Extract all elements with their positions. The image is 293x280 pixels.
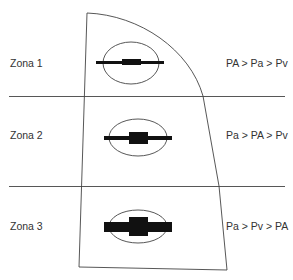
capillary-lumen-block: [122, 59, 141, 65]
zone-1: Zona 1 PA > Pa > Pv: [10, 42, 288, 84]
zone-label: Zona 3: [10, 220, 43, 232]
zone-3: Zona 3 Pa > Pv > PA: [10, 210, 288, 243]
pressure-relation: Pa > PA > Pv: [226, 129, 288, 141]
capillary-lumen-block: [129, 217, 148, 236]
zone-2: Zona 2 Pa > PA > Pv: [10, 119, 288, 156]
pressure-relation: Pa > Pv > PA: [226, 220, 288, 232]
zone-label: Zona 1: [10, 57, 43, 69]
pressure-relation: PA > Pa > Pv: [226, 57, 288, 69]
capillary-lumen-block: [129, 132, 148, 144]
lung-zones-diagram: Zona 1 PA > Pa > Pv Zona 2 Pa > PA > Pv …: [0, 0, 293, 280]
zone-label: Zona 2: [10, 129, 43, 141]
